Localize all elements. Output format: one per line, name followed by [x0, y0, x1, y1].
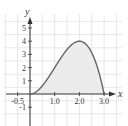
svg-text:2: 2 — [22, 64, 26, 73]
svg-text:5: 5 — [22, 24, 26, 33]
svg-text:1: 1 — [22, 77, 26, 86]
svg-text:-1: -1 — [19, 103, 26, 112]
x-axis-label: x — [117, 88, 123, 99]
svg-text:4: 4 — [22, 37, 26, 46]
svg-text:1.0: 1.0 — [50, 97, 60, 106]
svg-text:3: 3 — [22, 50, 26, 59]
y-axis-label: y — [24, 6, 30, 17]
chart: -0.51.02.03.054321-1 x y — [0, 0, 128, 126]
svg-text:3.0: 3.0 — [99, 97, 109, 106]
svg-text:2.0: 2.0 — [74, 97, 84, 106]
